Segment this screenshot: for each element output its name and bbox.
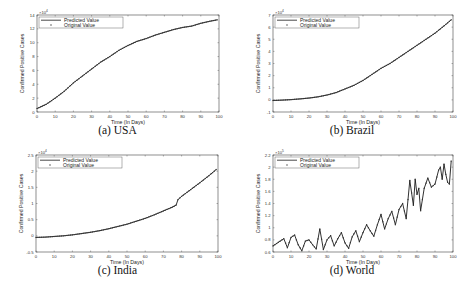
original-marker (280, 240, 281, 241)
original-marker (317, 238, 318, 239)
original-marker (364, 228, 365, 229)
original-marker (352, 236, 353, 237)
original-marker (314, 246, 315, 247)
original-marker (294, 234, 295, 235)
y-tick-label: 1.6 (265, 189, 271, 194)
legend: Predicted ValueOriginal Value (275, 157, 359, 168)
x-tick-label: 20 (307, 254, 312, 259)
original-marker (407, 199, 408, 200)
original-marker (438, 170, 439, 171)
original-marker (321, 239, 322, 240)
original-marker (301, 250, 302, 251)
original-marker (316, 248, 317, 249)
x-tick-label: 100 (450, 254, 458, 259)
x-tick-label: 0 (272, 254, 275, 259)
original-marker (299, 247, 300, 248)
original-marker (283, 238, 284, 239)
y-tick-label: 1.2 (265, 213, 271, 218)
original-marker (362, 232, 363, 233)
original-marker (429, 182, 430, 183)
original-marker (422, 199, 423, 200)
original-marker (380, 214, 381, 215)
original-marker (272, 245, 273, 246)
original-marker (402, 203, 403, 204)
original-marker (339, 235, 340, 236)
original-marker (433, 185, 434, 186)
original-marker (330, 235, 331, 236)
original-marker (451, 160, 452, 161)
y-tick-label: 0.6 (265, 250, 271, 255)
original-marker (420, 210, 421, 211)
original-marker (341, 232, 342, 233)
original-marker (303, 245, 304, 246)
original-marker (397, 217, 398, 218)
y-tick-label: 0.8 (265, 237, 271, 242)
original-marker (388, 218, 389, 219)
y-tick-label: 1.8 (265, 177, 271, 182)
original-marker (404, 210, 405, 211)
original-marker (440, 167, 441, 168)
y-multiplier: ×105 (275, 149, 284, 155)
predicted-line (273, 161, 451, 251)
original-marker (391, 211, 392, 212)
original-marker (346, 245, 347, 246)
original-marker (359, 241, 360, 242)
original-marker (389, 214, 390, 215)
original-marker (281, 239, 282, 240)
original-marker (334, 245, 335, 246)
original-marker (373, 236, 374, 237)
original-marker (413, 205, 414, 206)
original-marker (415, 179, 416, 180)
original-marker (292, 236, 293, 237)
y-tick-label: 1.4 (265, 201, 271, 206)
original-marker (278, 242, 279, 243)
original-marker (379, 219, 380, 220)
original-marker (386, 223, 387, 224)
original-marker (416, 194, 417, 195)
original-marker (382, 221, 383, 222)
original-marker (298, 244, 299, 245)
x-tick-label: 90 (433, 254, 438, 259)
original-marker (285, 243, 286, 244)
original-marker (445, 174, 446, 175)
original-marker (323, 249, 324, 250)
original-marker (290, 237, 291, 238)
original-marker (447, 182, 448, 183)
original-marker (312, 244, 313, 245)
original-marker (424, 188, 425, 189)
original-marker (411, 192, 412, 193)
x-tick-label: 10 (289, 254, 294, 259)
original-marker (409, 180, 410, 181)
original-marker (350, 242, 351, 243)
original-marker (308, 239, 309, 240)
original-marker (377, 224, 378, 225)
y-tick-label: 1 (268, 225, 271, 230)
original-marker (332, 240, 333, 241)
original-marker (357, 236, 358, 237)
original-marker (449, 184, 450, 185)
original-marker (366, 224, 367, 225)
y-tick-label: 2 (268, 165, 271, 170)
original-marker (443, 163, 444, 164)
original-marker (427, 177, 428, 178)
original-marker (348, 248, 349, 249)
original-marker (442, 179, 443, 180)
original-marker (395, 224, 396, 225)
original-marker (287, 247, 288, 248)
chart-world: 01020304050607080901000.60.811.21.41.61.… (0, 0, 469, 287)
original-marker (335, 242, 336, 243)
original-marker (368, 227, 369, 228)
original-marker (337, 238, 338, 239)
original-marker (296, 239, 297, 240)
original-marker (425, 183, 426, 184)
caption-world: (d) World (235, 264, 469, 276)
original-marker (371, 233, 372, 234)
original-marker (310, 242, 311, 243)
original-marker (274, 244, 275, 245)
original-marker (370, 230, 371, 231)
original-marker (418, 188, 419, 189)
original-marker (328, 237, 329, 238)
original-marker (400, 206, 401, 207)
original-marker (384, 228, 385, 229)
x-tick-label: 80 (415, 254, 420, 259)
